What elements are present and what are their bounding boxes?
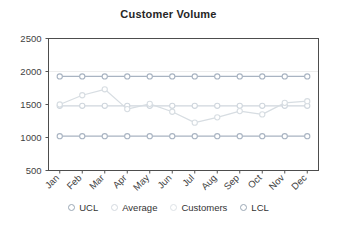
data-point: [80, 74, 85, 79]
data-point: [80, 103, 85, 108]
data-point: [215, 74, 220, 79]
legend-item-average[interactable]: Average: [111, 203, 157, 213]
data-point: [237, 109, 242, 114]
data-point: [282, 100, 287, 105]
data-point: [102, 103, 107, 108]
data-point: [237, 74, 242, 79]
legend-label: Average: [122, 203, 157, 213]
legend-marker-icon: [68, 204, 75, 211]
data-point: [147, 101, 152, 106]
legend-label: UCL: [79, 203, 98, 213]
legend-item-customers[interactable]: Customers: [170, 203, 227, 213]
data-point: [237, 103, 242, 108]
legend-label: Customers: [181, 203, 227, 213]
data-point: [125, 134, 130, 139]
legend-label: LCL: [251, 203, 268, 213]
data-point: [80, 93, 85, 98]
data-point: [215, 103, 220, 108]
x-tick-label: Sep: [221, 172, 241, 192]
data-point: [125, 107, 130, 112]
data-point: [260, 134, 265, 139]
data-point: [147, 134, 152, 139]
data-point: [102, 87, 107, 92]
legend-item-ucl[interactable]: UCL: [68, 203, 98, 213]
legend-marker-icon: [240, 204, 247, 211]
data-point: [192, 103, 197, 108]
data-point: [305, 99, 310, 104]
x-tick-label: Dec: [289, 172, 309, 192]
data-point: [170, 109, 175, 114]
legend-marker-icon: [170, 204, 177, 211]
legend-marker-icon: [111, 204, 118, 211]
x-tick-label: Jul: [180, 172, 196, 188]
y-tick-label: 1000: [20, 132, 41, 143]
plot-border: [49, 39, 319, 171]
data-point: [260, 103, 265, 108]
plot-frame: [49, 39, 319, 171]
data-point: [215, 115, 220, 120]
x-axis-ticks: JanFebMarAprMayJunJulAugSepOctNovDec: [43, 171, 309, 193]
y-tick-label: 500: [26, 165, 42, 176]
x-tick-label: May: [131, 172, 152, 193]
chart-legend: UCLAverageCustomersLCL: [0, 203, 337, 213]
x-tick-label: Apr: [110, 172, 128, 190]
legend-item-lcl[interactable]: LCL: [240, 203, 268, 213]
data-point: [125, 74, 130, 79]
data-point: [192, 134, 197, 139]
chart-container: Customer Volume 5001000150020002500 JanF…: [0, 0, 337, 235]
data-point: [192, 120, 197, 125]
data-point: [102, 74, 107, 79]
data-point: [170, 74, 175, 79]
data-point: [57, 134, 62, 139]
data-point: [260, 74, 265, 79]
data-point: [282, 134, 287, 139]
data-series-group: [57, 74, 310, 139]
data-point: [147, 74, 152, 79]
chart-plot: 5001000150020002500 JanFebMarAprMayJunJu…: [0, 0, 337, 235]
data-point: [57, 74, 62, 79]
data-point: [260, 112, 265, 117]
y-axis-ticks: 5001000150020002500: [20, 33, 48, 176]
data-point: [170, 103, 175, 108]
data-point: [305, 134, 310, 139]
data-point: [192, 74, 197, 79]
x-tick-label: Aug: [199, 172, 219, 192]
data-point: [305, 74, 310, 79]
data-point: [237, 134, 242, 139]
data-point: [57, 102, 62, 107]
y-tick-label: 2000: [20, 66, 41, 77]
x-tick-label: Feb: [64, 172, 83, 191]
data-point: [282, 74, 287, 79]
x-tick-label: Mar: [87, 172, 106, 191]
data-point: [80, 134, 85, 139]
x-tick-label: Nov: [266, 172, 286, 192]
y-tick-label: 1500: [20, 99, 41, 110]
x-tick-label: Jan: [43, 172, 62, 191]
data-point: [102, 134, 107, 139]
x-tick-label: Jun: [155, 172, 174, 191]
x-tick-label: Oct: [245, 172, 263, 190]
data-point: [215, 134, 220, 139]
y-tick-label: 2500: [20, 33, 41, 44]
data-point: [170, 134, 175, 139]
